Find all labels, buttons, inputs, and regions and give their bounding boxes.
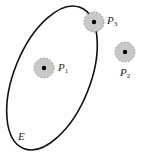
label-p1: P1	[58, 62, 68, 75]
point-p3	[84, 12, 104, 32]
diagram-canvas: P1 P2 P3 E	[0, 0, 144, 157]
label-p2: P2	[120, 67, 130, 80]
point-p2	[115, 42, 135, 62]
point-p1	[34, 58, 54, 78]
label-e: E	[18, 131, 25, 142]
label-p3: P3	[107, 15, 117, 28]
